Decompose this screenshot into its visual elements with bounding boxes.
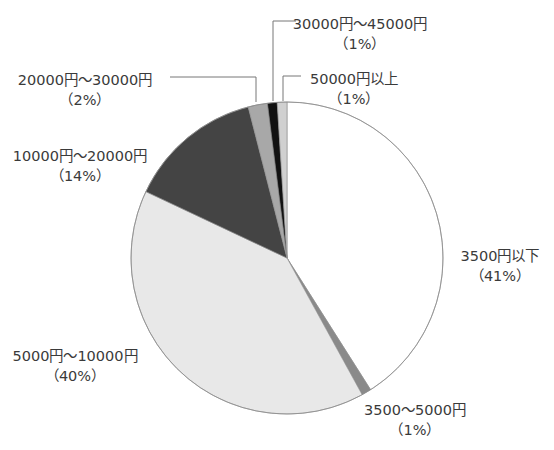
label-under-3500: 3500円以下（41%） — [461, 246, 540, 286]
leader-lines — [170, 21, 301, 102]
slice-label-text: 20000円〜30000円 — [18, 70, 152, 90]
slice-label-percent: （1%） — [310, 89, 398, 109]
slice-label-text: 3500〜5000円 — [364, 400, 466, 420]
leader-20000-30000 — [170, 77, 256, 102]
label-over-50000: 50000円以上（1%） — [310, 69, 398, 109]
slice-label-text: 10000円〜20000円 — [13, 146, 147, 166]
label-3500-5000: 3500〜5000円（1%） — [364, 400, 466, 440]
leader-over-50000 — [283, 76, 301, 101]
slice-label-percent: （1%） — [364, 420, 466, 440]
label-30000-45000: 30000円〜45000円（1%） — [293, 14, 427, 54]
slice-label-text: 50000円以上 — [310, 69, 398, 89]
pie-slices — [131, 102, 443, 414]
slice-label-percent: （41%） — [461, 266, 540, 286]
slice-label-text: 5000円〜10000円 — [12, 346, 137, 366]
label-10000-20000: 10000円〜20000円（14%） — [13, 146, 147, 186]
slice-label-text: 30000円〜45000円 — [293, 14, 427, 34]
label-20000-30000: 20000円〜30000円（2%） — [18, 70, 152, 110]
slice-label-percent: （1%） — [293, 34, 427, 54]
slice-label-percent: （2%） — [18, 90, 152, 110]
slice-label-percent: （14%） — [13, 166, 147, 186]
label-5000-10000: 5000円〜10000円（40%） — [12, 346, 137, 386]
slice-label-text: 3500円以下 — [461, 246, 540, 266]
slice-label-percent: （40%） — [12, 366, 137, 386]
